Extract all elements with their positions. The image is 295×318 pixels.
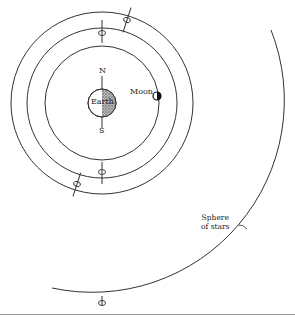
geocentric-diagram: N S Earth Moon Sphere of stars (0, 0, 295, 318)
axis-symbol-middle-top (99, 20, 106, 43)
sphere-of-stars-label: Sphere of stars (201, 213, 229, 231)
sphere-label-line1: Sphere (201, 213, 229, 222)
south-label: S (99, 127, 104, 135)
sphere-label-leader (238, 225, 247, 229)
bottom-rule (0, 314, 295, 315)
axis-symbol-outer-upper-right (120, 7, 135, 34)
moon (153, 92, 161, 100)
north-label: N (99, 67, 106, 75)
sphere-of-stars-arc (52, 30, 284, 292)
axis-symbol-middle-bottom (99, 162, 106, 184)
sphere-label-line2: of stars (201, 222, 229, 231)
moon-label: Moon (130, 88, 153, 96)
diagram-drawing (0, 0, 295, 318)
earth-label: Earth (91, 98, 114, 106)
axis-symbol-sphere-bottom (99, 296, 106, 306)
